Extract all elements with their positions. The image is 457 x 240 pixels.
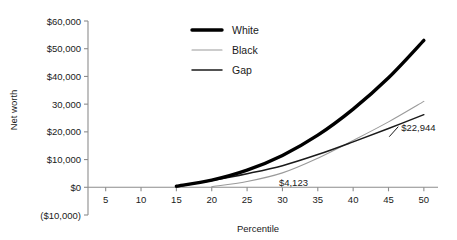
series-line-white xyxy=(176,40,423,186)
y-axis-title: Net worth xyxy=(8,90,19,131)
x-axis-title: Percentile xyxy=(237,223,279,234)
y-tick-label: $0 xyxy=(70,182,81,193)
x-tick-label: 50 xyxy=(419,194,430,205)
data-annotations: $4,123$22,944 xyxy=(279,122,436,188)
x-tick-label: 15 xyxy=(171,194,182,205)
net-worth-by-percentile-chart: ($10,000)$0$10,000$20,00030,000$40,000$5… xyxy=(0,0,457,240)
series-line-gap xyxy=(176,115,423,187)
x-tick-label: 25 xyxy=(242,194,253,205)
legend-label-white: White xyxy=(232,24,259,36)
chart-canvas: ($10,000)$0$10,000$20,00030,000$40,000$5… xyxy=(0,0,457,240)
chart-legend: WhiteBlackGap xyxy=(192,24,259,76)
x-tick-label: 45 xyxy=(383,194,394,205)
series-lines xyxy=(176,40,423,186)
y-tick-label: $50,000 xyxy=(47,43,81,54)
legend-label-black: Black xyxy=(232,44,258,56)
x-tick-label: 5 xyxy=(103,194,108,205)
x-tick-label: 40 xyxy=(348,194,359,205)
x-tick-label: 20 xyxy=(206,194,217,205)
data-label-4123: $4,123 xyxy=(279,177,308,188)
x-tick-label: 30 xyxy=(277,194,288,205)
x-tick-label: 10 xyxy=(136,194,147,205)
y-tick-label: 30,000 xyxy=(52,99,81,110)
y-tick-label: $60,000 xyxy=(47,16,81,27)
data-label-22944: $22,944 xyxy=(401,122,435,133)
y-tick-label: $20,000 xyxy=(47,126,81,137)
legend-label-gap: Gap xyxy=(232,64,252,76)
x-axis: 5101520253035404550 xyxy=(88,187,438,205)
y-tick-label: $40,000 xyxy=(47,71,81,82)
y-axis: ($10,000)$0$10,000$20,00030,000$40,000$5… xyxy=(40,16,88,221)
y-tick-label: $10,000 xyxy=(47,154,81,165)
y-tick-label: ($10,000) xyxy=(40,210,81,221)
x-tick-label: 35 xyxy=(313,194,324,205)
